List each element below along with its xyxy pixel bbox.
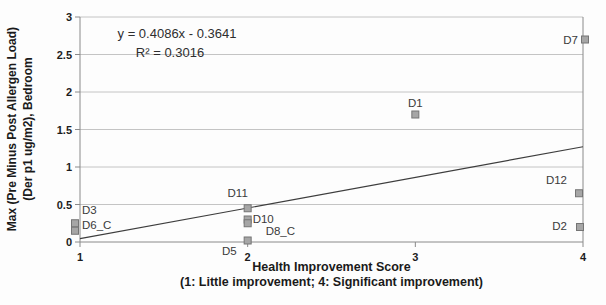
y-axis-title-line1: Max (Pre Minus Post Allergen Load) xyxy=(5,27,21,231)
point-marker-d12 xyxy=(576,190,583,197)
point-label-d8_c: D8_C xyxy=(266,225,295,237)
point-marker-d8_c xyxy=(244,220,251,227)
x-axis-title-line1: Health Improvement Score xyxy=(80,260,583,275)
point-label-d7: D7 xyxy=(563,34,578,46)
point-label-d1: D1 xyxy=(408,97,423,109)
r-squared-label: R² = 0.3016 xyxy=(136,45,204,60)
point-label-d10: D10 xyxy=(253,213,274,225)
scatter-chart-figure: 00.511.522.531234y = 0.4086x - 0.3641R² … xyxy=(0,0,606,305)
y-tick-label: 0.5 xyxy=(57,199,72,211)
y-axis-title-line2: (Der p1 ug/m2), Bedroom xyxy=(21,27,37,231)
point-label-d3: D3 xyxy=(82,204,97,216)
trendline-equation: y = 0.4086x - 0.3641 xyxy=(118,26,237,41)
point-label-d11: D11 xyxy=(228,187,248,199)
y-tick-label: 0 xyxy=(66,236,72,248)
x-axis-title-line2: (1: Little improvement; 4: Significant i… xyxy=(80,275,583,290)
y-tick-label: 3 xyxy=(66,11,72,23)
y-tick-label: 1.5 xyxy=(57,124,72,136)
y-tick-label: 2 xyxy=(66,86,72,98)
point-marker-d6_c xyxy=(72,227,79,234)
point-marker-d5 xyxy=(244,237,251,244)
point-label-d6_c: D6_C xyxy=(82,219,111,231)
point-marker-d2 xyxy=(577,224,584,231)
point-marker-d11 xyxy=(244,205,251,212)
point-label-d2: D2 xyxy=(552,220,567,232)
point-label-d5: D5 xyxy=(222,245,237,257)
x-axis-title: Health Improvement Score (1: Little impr… xyxy=(80,260,583,290)
point-marker-d7 xyxy=(582,36,589,43)
y-tick-label: 1 xyxy=(66,161,72,173)
y-axis-title: Max (Pre Minus Post Allergen Load) (Der … xyxy=(5,27,36,231)
point-marker-d3 xyxy=(72,220,79,227)
trendline xyxy=(80,147,583,239)
point-marker-d1 xyxy=(412,111,419,118)
y-tick-label: 2.5 xyxy=(57,49,72,61)
point-label-d12: D12 xyxy=(546,174,567,186)
